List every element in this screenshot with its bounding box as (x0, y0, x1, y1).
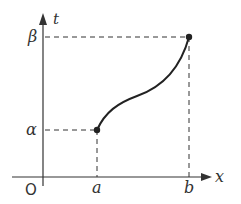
x-axis-arrow-icon (201, 173, 212, 181)
alpha-label: α (26, 120, 37, 139)
b-label: b (184, 178, 194, 197)
curve (97, 37, 189, 130)
y-axis-arrow-icon (39, 13, 47, 25)
origin-label: O (25, 181, 37, 199)
end-point (186, 34, 192, 40)
x-axis (12, 173, 212, 181)
x-axis-label: x (215, 167, 224, 186)
y-axis (39, 13, 47, 186)
function-graph: t x O β α a b (0, 0, 241, 204)
a-label: a (92, 178, 102, 197)
beta-label: β (27, 27, 37, 46)
start-point (94, 127, 100, 133)
y-axis-label: t (53, 10, 60, 28)
